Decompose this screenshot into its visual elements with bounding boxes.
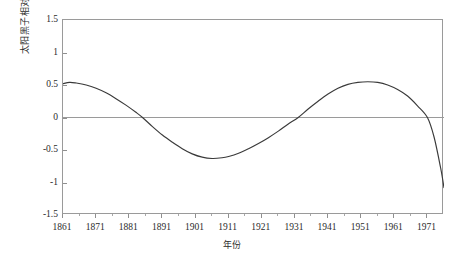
x-tick-mark	[228, 214, 229, 218]
y-tick-label: 1.5	[32, 14, 58, 24]
x-tick-mark-minor	[178, 214, 179, 216]
x-tick-mark-minor	[211, 214, 212, 216]
x-tick-mark	[161, 214, 162, 218]
x-tick-mark-minor	[377, 214, 378, 216]
y-tick-label: -1	[32, 177, 58, 187]
x-axis-tick-marks	[62, 214, 443, 220]
x-tick-mark	[95, 214, 96, 218]
data-series-line	[63, 82, 444, 188]
x-tick-mark	[327, 214, 328, 218]
y-tick-mark	[63, 85, 67, 86]
x-tick-mark	[195, 214, 196, 218]
x-tick-mark-minor	[344, 214, 345, 216]
y-tick-label: 0.5	[32, 79, 58, 89]
y-tick-label: -1.5	[32, 209, 58, 219]
y-tick-mark	[63, 118, 67, 119]
x-tick-mark	[294, 214, 295, 218]
y-tick-mark	[63, 183, 67, 184]
x-tick-mark	[426, 214, 427, 218]
plot-svg	[63, 20, 444, 215]
x-tick-mark-minor	[244, 214, 245, 216]
y-tick-mark	[63, 53, 67, 54]
y-tick-label: -0.5	[32, 144, 58, 154]
x-tick-label: 1971	[406, 221, 446, 233]
y-tick-mark	[63, 150, 67, 151]
x-tick-mark-minor	[410, 214, 411, 216]
x-tick-mark-minor	[277, 214, 278, 216]
x-tick-mark	[62, 214, 63, 218]
x-axis-title: 年份	[0, 238, 464, 251]
x-tick-mark-minor	[310, 214, 311, 216]
x-tick-mark	[261, 214, 262, 218]
x-tick-mark-minor	[79, 214, 80, 216]
x-tick-mark	[360, 214, 361, 218]
x-tick-mark-minor	[112, 214, 113, 216]
x-tick-mark	[128, 214, 129, 218]
y-tick-label: 1	[32, 47, 58, 57]
plot-area	[62, 19, 443, 214]
y-tick-label: 0	[32, 112, 58, 122]
sunspot-relative-number-chart: 太阳黑子相对数 1.510.50-0.5-1-1.5 1861187118811…	[0, 0, 464, 265]
x-tick-mark	[393, 214, 394, 218]
x-tick-mark-minor	[145, 214, 146, 216]
x-axis-tick-labels: 1861187118811891190119111921193119411951…	[62, 221, 443, 235]
